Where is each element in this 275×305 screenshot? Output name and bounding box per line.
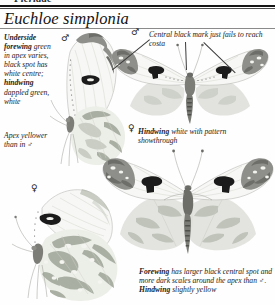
annotation-female-forewing: Forewing has larger black central spot a…	[139, 267, 273, 294]
annotation-underside-forewing: Underside forewing green in apex varies,…	[4, 33, 54, 106]
annotation-female-hindwing-lead: Hindwing	[139, 285, 170, 294]
annotation-central-black-mark: Central black mark just fails to reach c…	[149, 30, 267, 48]
figure-male-upperside	[104, 36, 275, 126]
page-title: Euchloe simplonia	[4, 9, 129, 29]
sex-symbol-male-upperside: ♂	[131, 28, 139, 37]
annotation-female-hindwing-text: slightly yellow	[170, 285, 216, 294]
annotation-female-forewing-lead: Forewing	[139, 267, 169, 276]
sex-symbol-male-underside: ♂	[61, 34, 69, 43]
header-rule-thick	[0, 5, 275, 7]
field-guide-page: Pieridae Euchloe simplonia	[0, 0, 275, 305]
annotation-hindwing-showthrough-lead: Hindwing	[138, 127, 169, 136]
annotation-underside-hindwing-lead: hindwing	[4, 78, 34, 87]
annotation-central-black-mark-text: Central black mark just fails to reach c…	[149, 30, 263, 48]
annotation-hindwing-showthrough: Hindwing white with pattern showthrough	[138, 127, 258, 145]
annotation-apex-yellower: Apex yellower than in ♂	[4, 131, 54, 149]
figure-female-underside	[8, 186, 138, 304]
sex-symbol-female-underside: ♀	[31, 184, 38, 193]
annotation-underside-hindwing-text: dappled green, white	[4, 88, 49, 106]
sex-symbol-female-upperside: ♀	[128, 124, 135, 133]
annotation-apex-yellower-text: Apex yellower than in ♂	[4, 131, 47, 149]
